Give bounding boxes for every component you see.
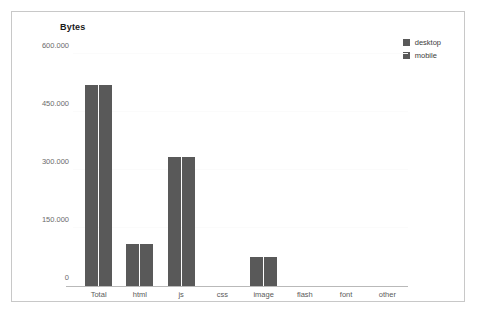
chart-legend: desktop mobile: [403, 38, 441, 60]
bar-total-mobile[interactable]: [99, 85, 112, 286]
bar-group: [367, 54, 408, 286]
bar-html-mobile[interactable]: [140, 244, 153, 286]
x-axis-tick-label: image: [243, 290, 284, 299]
bar-group: [161, 54, 202, 286]
legend-label-mobile: mobile: [415, 51, 437, 60]
bar-group: [243, 54, 284, 286]
x-axis-line: [66, 286, 408, 287]
bar-group: [119, 54, 160, 286]
bar-total-desktop[interactable]: [85, 85, 98, 286]
bar-series-container: [78, 54, 408, 286]
bar-group: [284, 54, 325, 286]
legend-label-desktop: desktop: [415, 38, 441, 47]
y-axis-tick-label: 300.000: [42, 157, 69, 166]
bar-js-desktop[interactable]: [168, 157, 181, 286]
x-axis-tick-label: css: [202, 290, 243, 299]
legend-item-mobile[interactable]: mobile: [403, 51, 441, 60]
x-axis-tick-label: flash: [284, 290, 325, 299]
chart-title: Bytes: [60, 22, 86, 32]
bar-html-desktop[interactable]: [126, 244, 139, 286]
plot-inner: 0150.000300.000450.000600.000: [78, 54, 408, 286]
y-axis-tick-label: 150.000: [42, 215, 69, 224]
y-axis-tick-label: 450.000: [42, 99, 69, 108]
x-axis-tick-label: Total: [78, 290, 119, 299]
y-axis-tick-label: 0: [65, 273, 69, 282]
x-axis-tick-labels: Totalhtmljscssimageflashfontother: [78, 290, 408, 299]
plot-area: 0150.000300.000450.000600.000: [78, 43, 408, 286]
bar-image-mobile[interactable]: [264, 257, 277, 286]
x-axis-tick-label: other: [367, 290, 408, 299]
bar-group: [326, 54, 367, 286]
x-axis-tick-label: js: [161, 290, 202, 299]
x-axis-tick-label: font: [326, 290, 367, 299]
bar-group: [78, 54, 119, 286]
chart-frame: Bytes desktop mobile 0150.000300.000450.…: [11, 11, 465, 302]
bar-js-mobile[interactable]: [182, 157, 195, 286]
x-axis-tick-label: html: [119, 290, 160, 299]
y-axis-tick-label: 600.000: [42, 41, 69, 50]
bar-image-desktop[interactable]: [250, 257, 263, 286]
legend-item-desktop[interactable]: desktop: [403, 38, 441, 47]
bar-group: [202, 54, 243, 286]
